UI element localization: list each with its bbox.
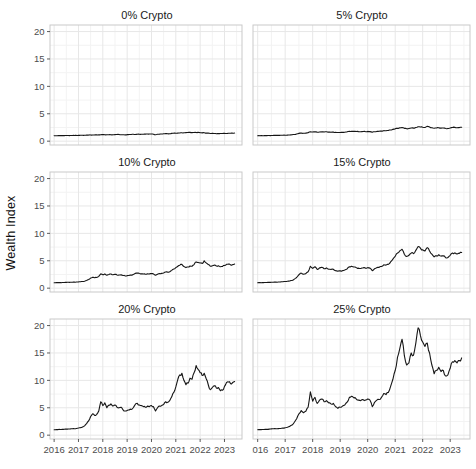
facet-25pct-crypto: 25% Crypto 20162017201820192020202120222… (252, 302, 472, 458)
svg-text:2022: 2022 (412, 444, 433, 455)
svg-text:2021: 2021 (165, 444, 186, 455)
facet-15pct-crypto: 15% Crypto (252, 155, 472, 293)
panel-plot-15pct (252, 171, 472, 293)
facet-grid: 0% Crypto 05101520 5% Crypto 10% Crypto … (24, 8, 472, 458)
wealth-index-facet-figure: Wealth Index 0% Crypto 05101520 5% Crypt… (0, 0, 476, 469)
svg-text:2021: 2021 (385, 444, 406, 455)
facet-20pct-crypto: 20% Crypto 05101520201620172018201920202… (24, 302, 244, 458)
svg-text:10: 10 (34, 228, 45, 239)
svg-text:2016: 2016 (44, 444, 65, 455)
facet-title-10pct: 10% Crypto (24, 155, 244, 171)
svg-text:15: 15 (34, 347, 45, 358)
svg-text:2019: 2019 (117, 444, 138, 455)
svg-text:5: 5 (39, 402, 44, 413)
svg-text:20: 20 (34, 26, 45, 37)
svg-text:2017: 2017 (68, 444, 89, 455)
svg-text:2023: 2023 (214, 444, 235, 455)
panel-plot-0pct: 05101520 (24, 24, 244, 146)
facet-title-5pct: 5% Crypto (252, 8, 472, 24)
facet-5pct-crypto: 5% Crypto (252, 8, 472, 146)
panel-plot-5pct (252, 24, 472, 146)
svg-text:20: 20 (34, 173, 45, 184)
svg-text:2023: 2023 (440, 444, 461, 455)
svg-text:20: 20 (34, 320, 45, 331)
svg-text:2019: 2019 (330, 444, 351, 455)
svg-text:0: 0 (39, 282, 44, 293)
facet-10pct-crypto: 10% Crypto 05101520 (24, 155, 244, 293)
facet-title-0pct: 0% Crypto (24, 8, 244, 24)
facet-title-15pct: 15% Crypto (252, 155, 472, 171)
svg-text:2017: 2017 (275, 444, 296, 455)
svg-text:15: 15 (34, 200, 45, 211)
svg-text:0: 0 (39, 135, 44, 146)
svg-text:2022: 2022 (190, 444, 211, 455)
svg-text:0: 0 (39, 429, 44, 440)
svg-text:5: 5 (39, 255, 44, 266)
svg-text:10: 10 (34, 81, 45, 92)
svg-text:2018: 2018 (92, 444, 113, 455)
panel-plot-25pct: 20162017201820192020202120222023 (252, 318, 472, 458)
facet-0pct-crypto: 0% Crypto 05101520 (24, 8, 244, 146)
facet-title-20pct: 20% Crypto (24, 302, 244, 318)
svg-text:2016: 2016 (252, 444, 268, 455)
svg-text:2020: 2020 (357, 444, 378, 455)
svg-text:5: 5 (39, 108, 44, 119)
y-axis-title: Wealth Index (4, 178, 18, 288)
svg-text:15: 15 (34, 53, 45, 64)
svg-text:2018: 2018 (302, 444, 323, 455)
panel-plot-10pct: 05101520 (24, 171, 244, 293)
svg-text:10: 10 (34, 375, 45, 386)
panel-plot-20pct: 0510152020162017201820192020202120222023 (24, 318, 244, 458)
svg-text:2020: 2020 (141, 444, 162, 455)
facet-title-25pct: 25% Crypto (252, 302, 472, 318)
